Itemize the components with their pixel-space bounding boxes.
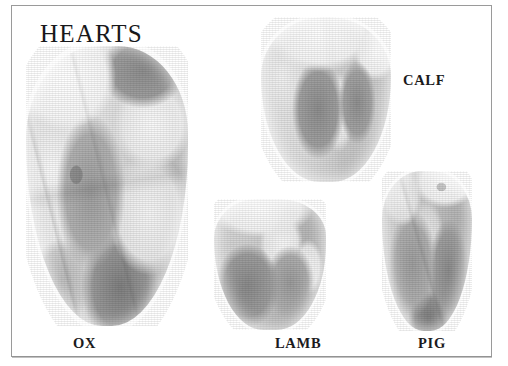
lamb-heart-photo bbox=[214, 199, 326, 330]
ox-heart-body bbox=[26, 46, 188, 326]
calf-heart-body bbox=[261, 17, 391, 182]
specimen-label-ox: OX bbox=[73, 336, 96, 350]
lamb-heart-halftone-grain bbox=[214, 199, 326, 330]
ox-heart-photo bbox=[26, 46, 188, 326]
specimen-label-pig: PIG bbox=[418, 336, 446, 350]
ox-heart-halftone-grain bbox=[26, 46, 188, 326]
pig-heart-body bbox=[382, 171, 472, 331]
lamb-heart-body bbox=[214, 199, 326, 330]
calf-heart-halftone-grain bbox=[261, 17, 391, 182]
specimen-label-calf: CALF bbox=[403, 73, 445, 87]
page-title: HEARTS bbox=[40, 21, 143, 46]
pig-heart-halftone-grain bbox=[382, 171, 472, 331]
calf-heart-photo bbox=[261, 17, 391, 182]
specimen-label-lamb: LAMB bbox=[275, 336, 321, 350]
pig-heart-photo bbox=[382, 171, 472, 331]
hearts-comparison-plate: HEARTS OX CALF LAMB PIG bbox=[0, 0, 508, 366]
